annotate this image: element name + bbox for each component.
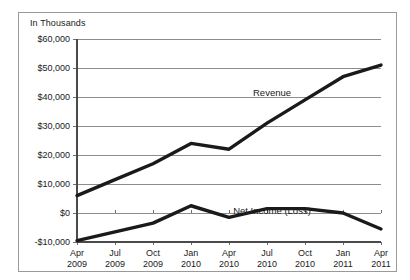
x-axis-tick-year: 2009 bbox=[143, 259, 163, 269]
y-axis-tick-label: $60,000 bbox=[37, 34, 70, 44]
y-axis-tick-label: $0 bbox=[60, 208, 70, 218]
x-axis-tick-label: Jul2009 bbox=[105, 248, 125, 269]
x-axis-tick-year: 2009 bbox=[67, 259, 87, 269]
y-axis-tick-labels: $60,000$50,000$40,000$30,000$20,000$10,0… bbox=[34, 34, 70, 247]
x-axis-tick-month: Jul bbox=[109, 248, 121, 258]
x-axis-tick-month: Jul bbox=[261, 248, 273, 258]
x-axis-tick-year: 2011 bbox=[333, 259, 352, 269]
x-axis-tick-year: 2010 bbox=[181, 259, 201, 269]
x-axis-tick-label: Apr2009 bbox=[67, 248, 87, 269]
x-axis-tick-label: Oct2009 bbox=[143, 248, 163, 269]
series-label-net-income-loss: Net Income (Loss) bbox=[233, 205, 311, 216]
series-label-revenue: Revenue bbox=[253, 87, 291, 98]
y-axis-tick-label: $30,000 bbox=[37, 121, 70, 131]
line-chart: $60,000$50,000$40,000$30,000$20,000$10,0… bbox=[19, 13, 396, 271]
x-axis-tick-year: 2010 bbox=[295, 259, 315, 269]
y-axis-tick-label: $20,000 bbox=[37, 150, 70, 160]
x-axis-tick-month: Jan bbox=[184, 248, 199, 258]
x-axis-tick-label: Jan2010 bbox=[181, 248, 201, 269]
x-axis-tick-label: Jan2011 bbox=[333, 248, 352, 269]
y-axis-tick-label: -$10,000 bbox=[34, 237, 70, 247]
x-axis-tick-label: Oct2010 bbox=[295, 248, 315, 269]
x-axis-tick-labels: Apr2009Jul2009Oct2009Jan2010Apr2010Jul20… bbox=[67, 248, 391, 269]
axis-ticks bbox=[77, 210, 381, 245]
x-axis-tick-label: Jul2010 bbox=[257, 248, 277, 269]
x-axis-tick-label: Apr2011 bbox=[371, 248, 390, 269]
x-axis-tick-year: 2010 bbox=[219, 259, 239, 269]
chart-frame: In Thousands $60,000$50,000$40,000$30,00… bbox=[18, 12, 397, 272]
x-axis-tick-month: Apr bbox=[374, 248, 388, 258]
x-axis-tick-label: Apr2010 bbox=[219, 248, 239, 269]
x-axis-tick-month: Apr bbox=[222, 248, 236, 258]
y-axis-tick-label: $10,000 bbox=[37, 179, 70, 189]
x-axis-tick-month: Oct bbox=[298, 248, 313, 258]
x-axis-tick-month: Apr bbox=[70, 248, 84, 258]
x-axis-tick-month: Jan bbox=[336, 248, 351, 258]
series-annotations: RevenueNet Income (Loss) bbox=[233, 87, 311, 216]
y-axis-tick-label: $40,000 bbox=[37, 92, 70, 102]
series-line-revenue bbox=[77, 65, 381, 196]
x-axis-tick-year: 2010 bbox=[257, 259, 277, 269]
x-axis-tick-year: 2009 bbox=[105, 259, 125, 269]
y-axis-tick-label: $50,000 bbox=[37, 63, 70, 73]
data-series bbox=[77, 65, 381, 240]
x-axis-tick-month: Oct bbox=[146, 248, 161, 258]
x-axis-tick-year: 2011 bbox=[371, 259, 390, 269]
